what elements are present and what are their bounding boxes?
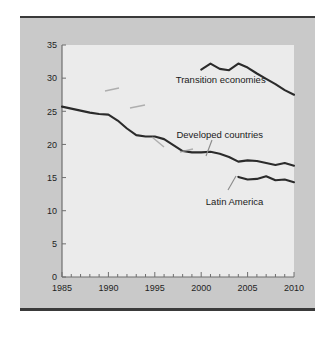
line-chart: 05101520253035 198519901995200020052010 … bbox=[0, 0, 334, 339]
y-tick-label: 20 bbox=[47, 140, 57, 150]
y-tick-label: 5 bbox=[52, 239, 57, 249]
x-tick-label: 2005 bbox=[238, 283, 258, 293]
y-tick-label: 30 bbox=[47, 73, 57, 83]
x-tick-label: 1995 bbox=[145, 283, 165, 293]
y-tick-label: 25 bbox=[47, 107, 57, 117]
y-tick-label: 0 bbox=[52, 272, 57, 282]
y-tick-label: 15 bbox=[47, 173, 57, 183]
series-label-latin-america: Latin America bbox=[206, 196, 264, 207]
series-label-developed-countries: Developed countries bbox=[176, 129, 263, 140]
figure-container: 05101520253035 198519901995200020052010 … bbox=[0, 0, 334, 339]
x-tick-label: 2010 bbox=[284, 283, 304, 293]
y-tick-label: 35 bbox=[47, 40, 57, 50]
y-tick-label: 10 bbox=[47, 206, 57, 216]
x-tick-label: 1985 bbox=[52, 283, 72, 293]
x-tick-label: 1990 bbox=[98, 283, 118, 293]
series-label-transition-economies: Transition economies bbox=[176, 74, 266, 85]
x-tick-label: 2000 bbox=[191, 283, 211, 293]
